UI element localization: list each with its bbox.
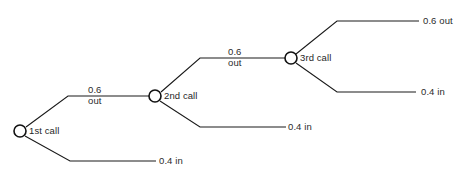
leaf-label-3rd-call-in: 0.4 in xyxy=(421,86,445,97)
edge-3rd-call-in xyxy=(296,63,416,92)
edge-2nd-call-out xyxy=(161,58,285,92)
node-label-2nd-call: 2nd call xyxy=(164,90,198,101)
leaf-label-3rd-call-out: 0.6 out xyxy=(423,15,453,26)
node-label-1st-call: 1st call xyxy=(29,125,59,136)
node-label-3rd-call: 3rd call xyxy=(300,52,331,63)
edge-probability: 0.6 xyxy=(88,84,102,95)
tree-graphics xyxy=(0,0,473,178)
leaf-label-2nd-call-in: 0.4 in xyxy=(288,121,312,132)
edge-3rd-call-out xyxy=(296,21,419,54)
probability-tree-diagram: 1st call 2nd call 3rd call 0.6 out 0.6 o… xyxy=(0,0,473,178)
edge-outcome: out xyxy=(88,95,102,106)
edge-probability: 0.6 xyxy=(228,46,242,57)
node-circle-2nd-call xyxy=(149,90,161,102)
node-circle-1st-call xyxy=(14,125,26,137)
edge-2nd-call-in xyxy=(160,101,286,127)
edge-outcome: out xyxy=(228,57,242,68)
edge-label-1st-call-out: 0.6 out xyxy=(88,84,102,106)
edge-label-2nd-call-out: 0.6 out xyxy=(228,46,242,68)
node-circle-3rd-call xyxy=(285,52,297,64)
leaf-label-1st-call-in: 0.4 in xyxy=(159,155,183,166)
edge-1st-call-in xyxy=(25,136,156,161)
